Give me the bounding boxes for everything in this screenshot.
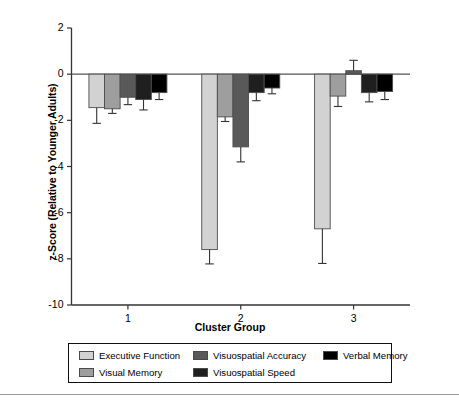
chart-legend: Executive Function Visuospatial Accuracy… bbox=[68, 343, 392, 383]
y-axis-tick-label: 0 bbox=[30, 68, 64, 79]
y-axis-tick-label: -6 bbox=[30, 207, 64, 218]
legend-label: Executive Function bbox=[99, 351, 180, 361]
bar bbox=[217, 74, 233, 117]
legend-swatch-icon bbox=[79, 368, 94, 377]
legend-row-2: Visual Memory Visuospatial Speed bbox=[69, 364, 391, 381]
bar bbox=[89, 74, 105, 107]
bar bbox=[346, 71, 362, 74]
legend-item-verbal-memory: Verbal Memory bbox=[323, 347, 408, 364]
bar bbox=[136, 74, 152, 99]
bar bbox=[120, 74, 136, 97]
legend-item-visual-memory: Visual Memory bbox=[79, 364, 162, 381]
bar bbox=[105, 74, 121, 109]
x-axis-tick-label: 2 bbox=[226, 312, 256, 324]
legend-row-1: Executive Function Visuospatial Accuracy… bbox=[69, 347, 391, 364]
legend-swatch-icon bbox=[323, 351, 338, 360]
y-axis-tick-label: -2 bbox=[30, 114, 64, 125]
page-divider-rule bbox=[0, 394, 459, 395]
bar bbox=[361, 74, 377, 92]
bar bbox=[264, 74, 280, 88]
legend-item-visuospatial-speed: Visuospatial Speed bbox=[193, 364, 295, 381]
figure-panel: z-Score (Relative to Younger Adults) Clu… bbox=[0, 0, 459, 407]
legend-label: Visuospatial Accuracy bbox=[213, 351, 306, 361]
bar bbox=[233, 74, 249, 147]
x-axis-tick-label: 1 bbox=[113, 312, 143, 324]
y-axis-tick-label: -4 bbox=[30, 161, 64, 172]
legend-label: Visuospatial Speed bbox=[213, 368, 295, 378]
legend-label: Visual Memory bbox=[99, 368, 162, 378]
bar bbox=[202, 74, 218, 249]
bar bbox=[330, 74, 346, 96]
y-axis-tick-label: 2 bbox=[30, 22, 64, 33]
bar bbox=[315, 74, 331, 229]
bar bbox=[151, 74, 167, 92]
bar bbox=[377, 74, 393, 91]
y-axis-tick-label: -8 bbox=[30, 253, 64, 264]
legend-swatch-icon bbox=[79, 351, 94, 360]
y-axis-tick-label: -10 bbox=[30, 299, 64, 310]
legend-swatch-icon bbox=[193, 368, 208, 377]
x-axis-tick-label: 3 bbox=[339, 312, 369, 324]
bar bbox=[249, 74, 265, 92]
legend-swatch-icon bbox=[193, 351, 208, 360]
legend-item-visuospatial-accuracy: Visuospatial Accuracy bbox=[193, 347, 306, 364]
legend-label: Verbal Memory bbox=[343, 351, 408, 361]
legend-item-executive-function: Executive Function bbox=[79, 347, 180, 364]
